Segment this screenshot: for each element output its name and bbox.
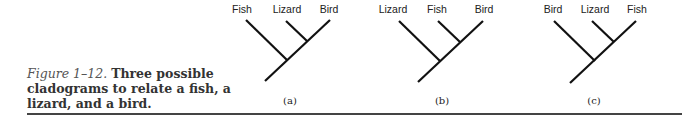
figure-caption: Figure 1–12. Three possible cladograms t… [27, 66, 247, 111]
cladogram-a: Fish Lizard Bird (a) [240, 0, 390, 110]
cladogram-c-tree [537, 0, 687, 110]
taxon-label: Bird [475, 3, 494, 15]
figure-label: Figure 1–12. [27, 66, 107, 81]
cladogram-b: Lizard Fish Bird (b) [390, 0, 540, 110]
cladogram-a-tree [240, 0, 390, 110]
taxon-label: Bird [544, 3, 563, 15]
cladogram-c: Bird Lizard Fish (c) [537, 0, 687, 110]
cladogram-sublabel: (b) [435, 95, 449, 106]
taxon-label: Bird [320, 3, 339, 15]
cladogram-sublabel: (c) [587, 95, 600, 106]
taxon-label: Fish [232, 3, 252, 15]
divider-rule [27, 113, 682, 115]
taxon-label: Lizard [273, 3, 302, 15]
cladogram-sublabel: (a) [283, 95, 297, 106]
taxon-label: Fish [427, 3, 447, 15]
taxon-label: Fish [627, 3, 647, 15]
taxon-label: Lizard [379, 3, 408, 15]
taxon-label: Lizard [581, 3, 610, 15]
cladogram-b-tree [390, 0, 540, 110]
